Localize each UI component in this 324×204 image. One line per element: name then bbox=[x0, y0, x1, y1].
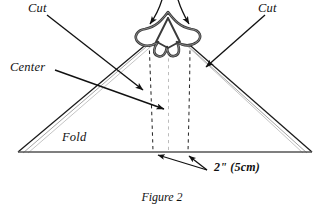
label-measurement: 2" (5cm) bbox=[214, 161, 260, 173]
cut-right-leader-arrow bbox=[206, 15, 265, 67]
figure-caption: Figure 2 bbox=[0, 191, 324, 203]
label-center: Center bbox=[10, 61, 45, 74]
figure-container: Cut Cut Center Fold 2" (5cm) Figure 2 bbox=[0, 0, 324, 204]
trefoil-flower-icon bbox=[136, 12, 200, 56]
label-fold: Fold bbox=[62, 131, 86, 144]
label-cut-left: Cut bbox=[28, 2, 47, 15]
cut-left-leader-arrow bbox=[47, 15, 143, 90]
measurement-arrows bbox=[158, 155, 207, 170]
label-cut-right: Cut bbox=[258, 2, 277, 15]
figure-diagram bbox=[0, 0, 324, 204]
